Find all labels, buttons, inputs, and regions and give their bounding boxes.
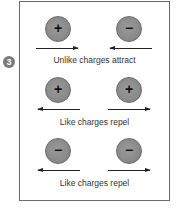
arrow-right-icon bbox=[108, 170, 150, 171]
caption-unlike-attract: Unlike charges attract bbox=[19, 55, 170, 65]
negative-charge-icon: − bbox=[116, 16, 142, 42]
arrow-left-icon bbox=[38, 109, 80, 110]
caption-like-repel: Like charges repel bbox=[19, 178, 170, 188]
arrow-right-icon bbox=[36, 48, 78, 49]
positive-charge-icon: + bbox=[116, 77, 142, 103]
step-number-badge: 3 bbox=[3, 56, 15, 68]
arrow-left-icon bbox=[110, 48, 152, 49]
positive-charge-icon: + bbox=[45, 77, 71, 103]
negative-charge-icon: − bbox=[45, 138, 71, 164]
negative-charge-icon: − bbox=[116, 138, 142, 164]
caption-like-repel: Like charges repel bbox=[19, 117, 170, 127]
positive-charge-icon: + bbox=[45, 16, 71, 42]
arrow-left-icon bbox=[38, 170, 80, 171]
arrow-right-icon bbox=[108, 109, 150, 110]
